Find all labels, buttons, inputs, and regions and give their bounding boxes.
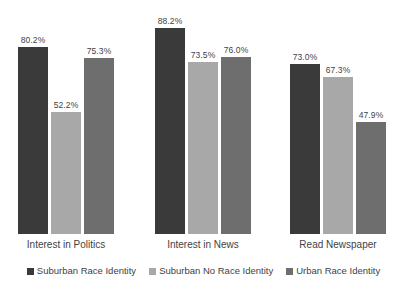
legend-swatch-icon bbox=[27, 268, 34, 275]
bar-value-label: 67.3% bbox=[326, 65, 351, 75]
legend-label: Suburban Race Identity bbox=[37, 265, 136, 277]
legend-item[interactable]: Suburban No Race Identity bbox=[149, 265, 273, 277]
bar-column[interactable]: 80.2% bbox=[18, 47, 48, 234]
bar[interactable] bbox=[84, 58, 114, 234]
bar[interactable] bbox=[356, 122, 386, 234]
bar-column[interactable]: 73.5% bbox=[188, 62, 218, 234]
bar-value-label: 52.2% bbox=[54, 100, 79, 110]
bar-column[interactable]: 47.9% bbox=[356, 122, 386, 234]
bar-value-label: 47.9% bbox=[359, 110, 384, 120]
bar-value-label: 73.5% bbox=[191, 50, 216, 60]
bar[interactable] bbox=[51, 112, 81, 234]
category-label: Interest in Politics bbox=[18, 238, 114, 252]
bar-value-label: 88.2% bbox=[158, 16, 183, 26]
bar-column[interactable]: 76.0% bbox=[221, 57, 251, 234]
bar-column[interactable]: 75.3% bbox=[84, 58, 114, 234]
bar[interactable] bbox=[323, 77, 353, 234]
legend-swatch-icon bbox=[149, 268, 156, 275]
bar-value-label: 80.2% bbox=[21, 35, 46, 45]
category-label: Interest in News bbox=[155, 238, 251, 252]
bar-column[interactable]: 88.2% bbox=[155, 28, 185, 234]
category-label: Read Newspaper bbox=[290, 238, 386, 252]
bar-column[interactable]: 67.3% bbox=[323, 77, 353, 234]
bar-group: 80.2%52.2%75.3% bbox=[18, 0, 114, 236]
bar-chart: 80.2%52.2%75.3%88.2%73.5%76.0%73.0%67.3%… bbox=[0, 0, 407, 284]
bar[interactable] bbox=[221, 57, 251, 234]
legend-item[interactable]: Suburban Race Identity bbox=[27, 265, 136, 277]
bar-column[interactable]: 73.0% bbox=[290, 64, 320, 234]
bar-column[interactable]: 52.2% bbox=[51, 112, 81, 234]
legend-item[interactable]: Urban Race Identity bbox=[286, 265, 380, 277]
bar[interactable] bbox=[18, 47, 48, 234]
chart-legend: Suburban Race IdentitySuburban No Race I… bbox=[0, 262, 407, 280]
bar[interactable] bbox=[290, 64, 320, 234]
legend-label: Urban Race Identity bbox=[296, 265, 380, 277]
plot-area: 80.2%52.2%75.3%88.2%73.5%76.0%73.0%67.3%… bbox=[0, 0, 407, 236]
legend-swatch-icon bbox=[286, 268, 293, 275]
bar-value-label: 76.0% bbox=[224, 45, 249, 55]
bar-value-label: 73.0% bbox=[293, 52, 318, 62]
legend-label: Suburban No Race Identity bbox=[159, 265, 273, 277]
bar-group: 88.2%73.5%76.0% bbox=[155, 0, 251, 236]
bar-value-label: 75.3% bbox=[87, 46, 112, 56]
bar[interactable] bbox=[188, 62, 218, 234]
bar-group: 73.0%67.3%47.9% bbox=[290, 0, 386, 236]
category-axis: Interest in PoliticsInterest in NewsRead… bbox=[0, 238, 407, 258]
bar[interactable] bbox=[155, 28, 185, 234]
